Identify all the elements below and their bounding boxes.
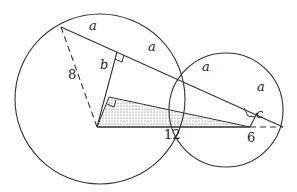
label-a1: a [89, 19, 97, 32]
label-radius: 8 [68, 68, 76, 81]
radius-dashed [61, 27, 97, 127]
label-a4: a [257, 80, 265, 93]
label-base: 12 [164, 128, 181, 141]
label-b: b [100, 58, 108, 71]
label-c: c [256, 107, 263, 120]
large-circle [15, 14, 185, 184]
geometry-diagram: a a a a b c 8 12 6 [0, 0, 297, 192]
label-a2: a [148, 40, 156, 53]
diagram-figure [0, 0, 297, 192]
label-extension: 6 [247, 131, 255, 144]
label-a3: a [202, 60, 210, 73]
small-circle [169, 53, 283, 167]
